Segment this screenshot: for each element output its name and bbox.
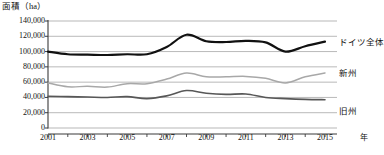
x-axis-tick-labels: 20012003200520072009201120132015 xyxy=(0,133,379,147)
x-axis-unit-label: 年 xyxy=(360,133,368,142)
x-tick-label: 2011 xyxy=(232,133,260,142)
series-label-new-states: 新州 xyxy=(339,68,357,78)
x-tick-label: 2003 xyxy=(74,133,102,142)
series-line-1 xyxy=(48,73,325,87)
x-tick-label: 2009 xyxy=(192,133,220,142)
series-line-0 xyxy=(48,35,325,55)
x-tick-label: 2005 xyxy=(113,133,141,142)
x-tick-label: 2001 xyxy=(34,133,62,142)
series-label-germany-total: ドイツ全体 xyxy=(339,37,384,47)
series-line-2 xyxy=(48,90,325,99)
x-tick-label: 2013 xyxy=(271,133,299,142)
series-label-old-states: 旧州 xyxy=(339,106,357,116)
x-tick-label: 2015 xyxy=(311,133,339,142)
x-tick-label: 2007 xyxy=(153,133,181,142)
